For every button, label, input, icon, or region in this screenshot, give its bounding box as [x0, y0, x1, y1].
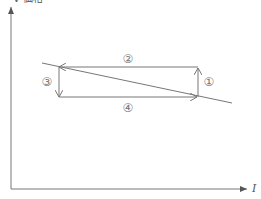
step-1-label: ① [204, 76, 215, 88]
y-axis-label: V 価格 [13, 0, 43, 4]
step-4-label: ④ [123, 102, 134, 114]
step-2-label: ② [123, 53, 134, 65]
cycle-diagram [0, 0, 261, 199]
x-axis-label: I [252, 183, 256, 194]
step-3-label: ③ [42, 76, 53, 88]
